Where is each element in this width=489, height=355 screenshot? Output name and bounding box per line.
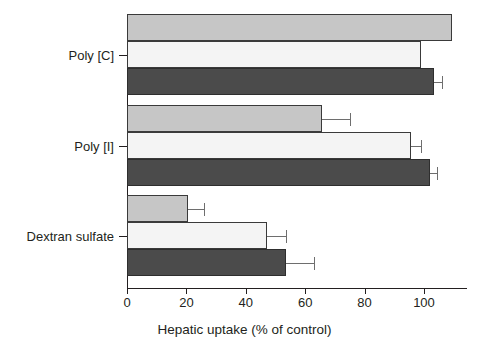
bar-row [127,105,467,132]
error-bar [322,119,350,120]
error-bar-cap [314,257,315,270]
x-axis-tick-label: 0 [107,295,147,310]
x-axis-tick [424,288,425,294]
bar-row [127,68,467,95]
error-bar [267,236,286,237]
bar[interactable] [127,222,267,249]
y-axis-tick-label: Poly [I] [74,138,114,153]
x-axis-tick [365,288,366,294]
y-axis-tick-label: Dextran sulfate [27,228,114,243]
bar-row [127,41,467,68]
bar[interactable] [127,195,188,222]
bar[interactable] [127,68,434,95]
bar[interactable] [127,132,411,159]
x-axis-tick [305,288,306,294]
bar-row [127,222,467,249]
bar-row [127,132,467,159]
y-axis-tick [119,146,127,147]
x-axis-tick-label: 60 [285,295,325,310]
bar[interactable] [127,41,421,68]
error-bar [188,209,204,210]
x-axis-tick-label: 20 [166,295,206,310]
bar[interactable] [127,249,286,276]
x-axis-tick-label: 80 [345,295,385,310]
error-bar [430,173,437,174]
bar-row [127,195,467,222]
error-bar [434,82,441,83]
bar[interactable] [127,159,430,186]
bar-group [127,195,467,276]
y-axis-tick [119,236,127,237]
x-axis-tick-label: 40 [226,295,266,310]
y-axis-tick [119,55,127,56]
error-bar-cap [442,76,443,89]
error-bar-cap [286,230,287,243]
error-bar-cap [350,113,351,126]
bar[interactable] [127,14,452,41]
error-bar [286,263,314,264]
error-bar-cap [437,167,438,180]
x-axis-line [127,288,467,289]
bar-row [127,159,467,186]
bar-group [127,14,467,95]
error-bar-cap [421,140,422,153]
bar-group [127,105,467,186]
plot-area [127,14,467,288]
x-axis-tick [186,288,187,294]
y-axis-tick-label: Poly [C] [68,47,114,62]
bar-chart-figure: Poly [C]Poly [I]Dextran sulfate 02040608… [0,0,489,355]
error-bar [411,146,421,147]
x-axis-tick [127,288,128,294]
x-axis-title: Hepatic uptake (% of control) [0,322,489,337]
x-axis-tick-label: 100 [404,295,444,310]
bar-row [127,14,467,41]
bar[interactable] [127,105,322,132]
bar-row [127,249,467,276]
error-bar-cap [204,203,205,216]
x-axis-tick [246,288,247,294]
